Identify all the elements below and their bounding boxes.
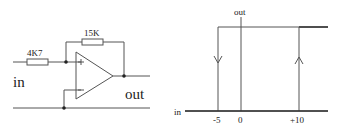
junction-dot-input — [64, 60, 68, 64]
feedback-wire-right — [103, 42, 124, 76]
label-out: out — [125, 86, 145, 102]
resistor-4k7-icon — [27, 59, 48, 65]
chart-xlabel-in: in — [174, 107, 182, 117]
label-4k7: 4K7 — [27, 48, 43, 58]
junction-dot-output — [122, 74, 126, 78]
resistor-15k-icon — [82, 39, 103, 45]
tick-0: 0 — [238, 115, 243, 125]
diagram-canvas: 4K7 15K in out out in -5 0 +10 — [0, 0, 345, 128]
chart-ylabel-out: out — [234, 7, 246, 17]
opamp-icon — [76, 52, 113, 99]
hysteresis-chart — [185, 17, 328, 111]
tick-minus5: -5 — [213, 115, 221, 125]
feedback-wire-left — [66, 42, 82, 62]
label-in: in — [13, 74, 25, 90]
label-15k: 15K — [84, 28, 100, 38]
opamp-input-marks — [78, 59, 84, 90]
junction-dot-ground — [62, 106, 66, 110]
minus-input-wire — [64, 90, 81, 108]
tick-plus10: +10 — [290, 115, 305, 125]
